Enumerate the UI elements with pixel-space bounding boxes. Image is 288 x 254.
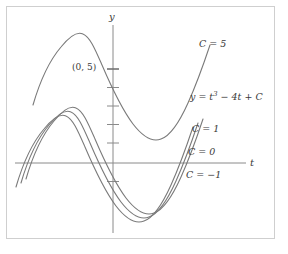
plot-frame: y t (0, 5) y = t3 − 4t + C C = 5 C = 1 C…	[6, 6, 275, 239]
curve-label-c5: C = 5	[199, 39, 226, 49]
curve-label-cm1: C = −1	[186, 170, 221, 180]
curve-c1	[26, 107, 203, 214]
y-axis-label: y	[109, 12, 115, 22]
equation-suffix: − 4t + C	[218, 91, 263, 102]
curve-label-c0: C = 0	[188, 147, 215, 157]
equation-prefix: y = t	[190, 91, 213, 102]
figure-root: y t (0, 5) y = t3 − 4t + C C = 5 C = 1 C…	[0, 0, 288, 254]
curve-c0	[21, 111, 198, 218]
curve-label-c1: C = 1	[192, 124, 219, 134]
curve-cm1	[16, 115, 193, 222]
t-axis-label: t	[250, 158, 254, 168]
plot-canvas	[7, 7, 274, 238]
curve-c5	[33, 33, 210, 140]
point-label-0-5: (0, 5)	[72, 63, 96, 72]
equation-label: y = t3 − 4t + C	[190, 91, 263, 102]
